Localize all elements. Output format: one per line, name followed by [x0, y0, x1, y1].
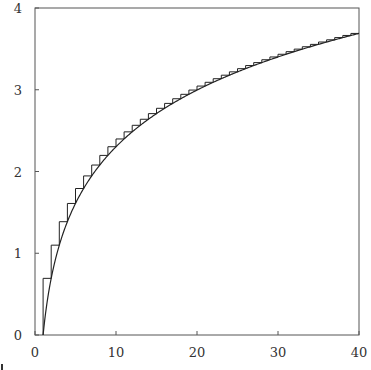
x-tick-label: 20: [189, 345, 206, 360]
y-tick-label: 1: [14, 246, 22, 261]
step-function-series: [43, 33, 359, 335]
y-tick-label: 3: [14, 83, 22, 98]
x-tick-label: 0: [31, 345, 39, 360]
y-tick-label: 2: [14, 165, 22, 180]
y-tick-label: 4: [14, 1, 22, 16]
x-tick-label: 40: [351, 345, 368, 360]
plot-frame: [35, 8, 359, 335]
x-tick-label: 30: [270, 345, 287, 360]
x-tick-label: 10: [108, 345, 125, 360]
log-curve-series: [43, 33, 359, 335]
corner-artifact: [1, 364, 3, 370]
y-tick-label: 0: [14, 328, 22, 343]
chart: 010203040 01234: [0, 0, 371, 370]
